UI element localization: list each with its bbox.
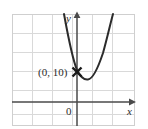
y-axis-label: y	[65, 12, 71, 24]
point-label: (0, 10)	[38, 66, 68, 79]
graph-figure: (0, 10) 0 y x	[0, 0, 148, 129]
origin-label: 0	[66, 105, 72, 117]
x-axis-label: x	[126, 105, 132, 117]
